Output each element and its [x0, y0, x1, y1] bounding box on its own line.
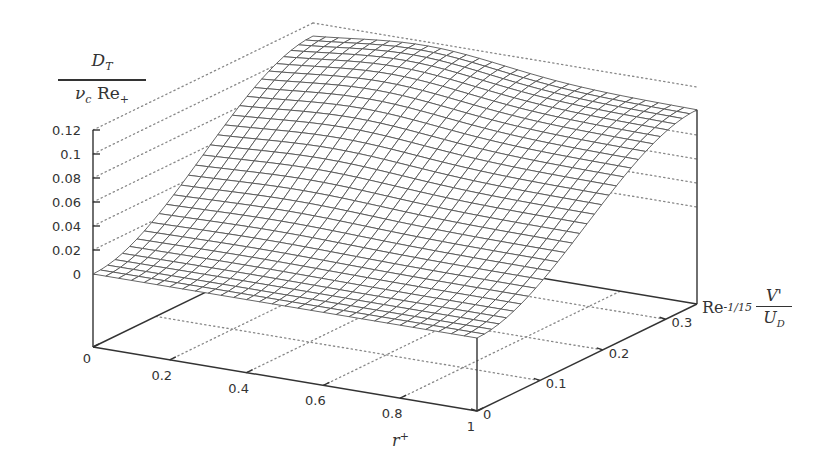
surface-mesh [93, 36, 697, 338]
x-tick [93, 344, 99, 347]
y-axis-label: Re-1/15 V' UD [702, 286, 792, 329]
y-tick [534, 378, 540, 380]
z-tick-label: 0.06 [52, 195, 81, 210]
x-tick-label: 0.2 [151, 368, 172, 383]
x-tick [247, 370, 253, 373]
x-axis-label: r+ [392, 430, 409, 450]
z-tick-label: 0.04 [52, 219, 81, 234]
y-tick [660, 317, 666, 319]
x-tick-label: 0.8 [382, 406, 403, 421]
z-tick-label: 0.02 [52, 243, 81, 258]
x-tick [400, 395, 406, 398]
z-tick-label: 0.08 [52, 171, 81, 186]
x-tick-label: 0 [83, 351, 91, 366]
x-tick-label: 1 [467, 419, 475, 434]
y-tick-label: 0 [483, 407, 491, 422]
x-tick [323, 382, 329, 385]
y-tick [597, 348, 603, 350]
z-tick-label: 0.1 [60, 147, 81, 162]
z-tick-label: 0 [73, 267, 81, 282]
z-axis-label: DT νc Re+ [52, 50, 152, 110]
x-tick-label: 0.6 [305, 393, 326, 408]
y-tick-label: 0.1 [546, 376, 567, 391]
z-tick-label: 0.12 [52, 123, 81, 138]
y-tick-label: 0.2 [609, 346, 630, 361]
y-axis-line [477, 304, 697, 411]
x-tick-label: 0.4 [228, 381, 249, 396]
x-tick [170, 357, 176, 360]
y-tick-label: 0.3 [672, 315, 693, 330]
